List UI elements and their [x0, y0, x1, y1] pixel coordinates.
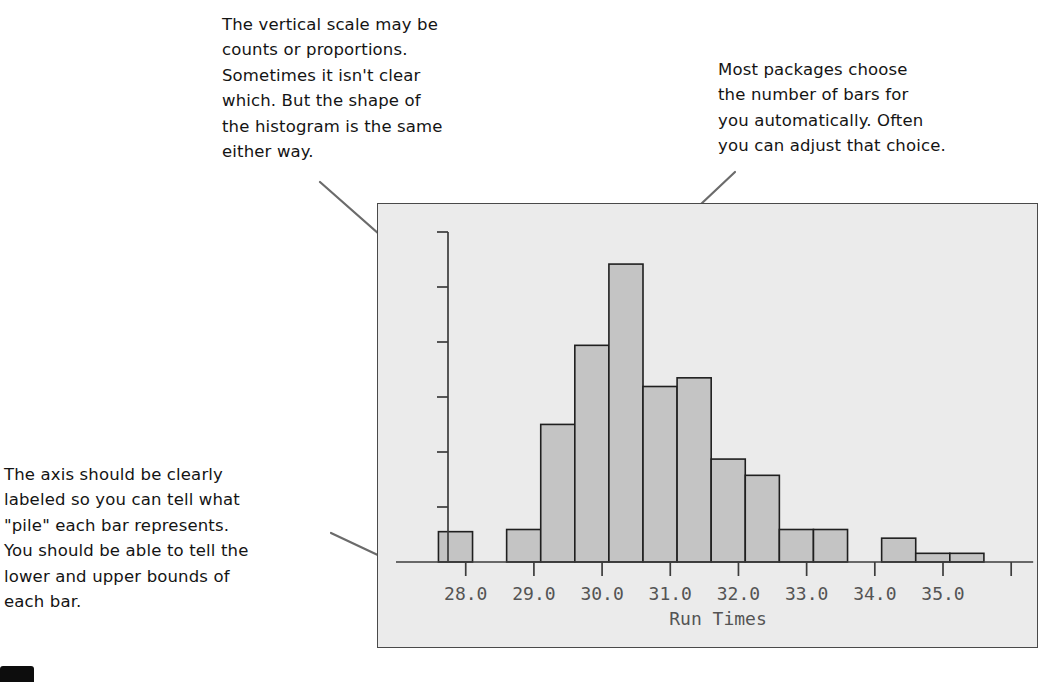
histogram-bar	[813, 530, 847, 563]
histogram-bar	[643, 387, 677, 563]
histogram-bar	[711, 459, 745, 562]
x-tick-label: 33.0	[785, 583, 828, 604]
histogram-bar	[882, 538, 916, 562]
page-corner-mark	[0, 666, 34, 682]
x-axis-title: Run Times	[669, 608, 767, 629]
x-tick-label: 32.0	[717, 583, 760, 604]
plot-area: 28.029.030.031.032.033.034.035.0 Run Tim…	[378, 204, 1037, 647]
histogram-bar	[779, 530, 813, 563]
histogram-bar	[916, 553, 950, 562]
x-tick-label: 35.0	[921, 583, 964, 604]
x-tick-label: 29.0	[512, 583, 555, 604]
x-tick-label: 30.0	[580, 583, 623, 604]
histogram-bar	[541, 424, 575, 562]
histogram-bar	[438, 532, 472, 562]
x-tick-label: 31.0	[649, 583, 692, 604]
histogram-bar	[745, 475, 779, 562]
histogram-bars	[438, 264, 983, 562]
histogram-bar	[677, 378, 711, 562]
histogram-bar	[950, 553, 984, 562]
x-tick-label: 28.0	[444, 583, 487, 604]
x-tick-label: 34.0	[853, 583, 896, 604]
histogram-bar	[609, 264, 643, 562]
x-tick-labels: 28.029.030.031.032.033.034.035.0	[444, 583, 965, 604]
histogram-bar	[575, 345, 609, 562]
histogram-chart: 28.029.030.031.032.033.034.035.0 Run Tim…	[377, 203, 1038, 648]
figure-root: The vertical scale may becounts or propo…	[0, 0, 1057, 682]
histogram-bar	[507, 530, 541, 563]
